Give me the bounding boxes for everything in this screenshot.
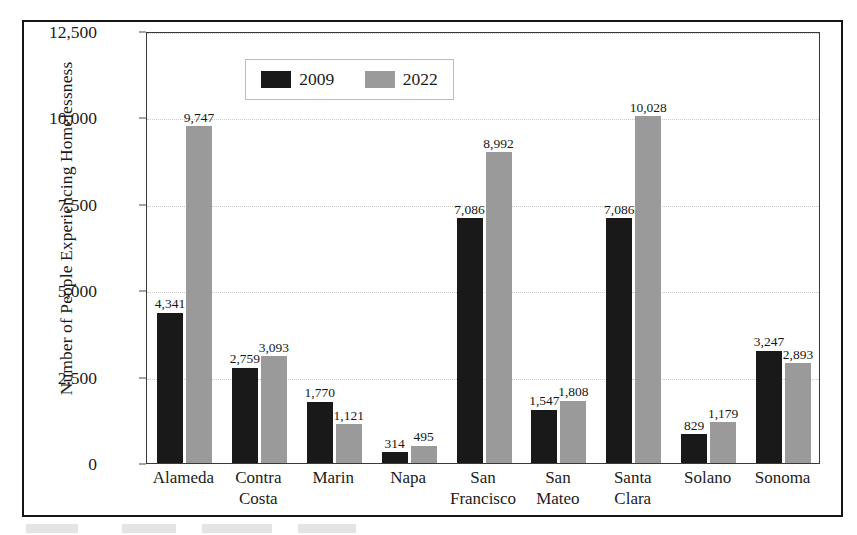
y-axis-tick-mark bbox=[139, 204, 146, 205]
bar-value-label: 2,893 bbox=[783, 348, 813, 362]
y-axis-tick-label: 0 bbox=[0, 454, 97, 475]
y-axis-tick-mark bbox=[139, 118, 146, 119]
legend-label-2022: 2022 bbox=[403, 69, 438, 90]
y-axis-tick-label: 7,500 bbox=[0, 194, 97, 215]
bar-2022[interactable]: 10,028 bbox=[635, 116, 661, 463]
x-axis-label: Santa Clara bbox=[595, 468, 670, 509]
y-axis-tick-label: 10,000 bbox=[0, 108, 97, 129]
bar-2022[interactable]: 1,121 bbox=[336, 424, 362, 463]
x-axis-label: San Mateo bbox=[520, 468, 595, 509]
bar-group: 3,2472,893 bbox=[756, 33, 811, 463]
x-axis-label: Marin bbox=[296, 468, 371, 489]
bar-group: 7,08610,028 bbox=[606, 33, 661, 463]
bar-2022[interactable]: 3,093 bbox=[261, 356, 287, 463]
bar-value-label: 7,086 bbox=[454, 203, 484, 217]
bar-2022[interactable]: 495 bbox=[411, 446, 437, 463]
bar-group: 4,3419,747 bbox=[157, 33, 212, 463]
y-axis-tick-mark bbox=[139, 464, 146, 465]
y-axis-tick-mark bbox=[139, 291, 146, 292]
bar-value-label: 3,093 bbox=[259, 341, 289, 355]
chart-legend: 2009 2022 bbox=[245, 59, 454, 100]
clipped-caption-remnant bbox=[26, 524, 446, 533]
bar-chart: Number of People Experiencing Homelessne… bbox=[24, 22, 841, 515]
bar-group: 1,5471,808 bbox=[531, 33, 586, 463]
x-axis-label: Napa bbox=[371, 468, 446, 489]
y-axis-tick-mark bbox=[139, 32, 146, 33]
bar-2009[interactable]: 4,341 bbox=[157, 313, 183, 463]
bar-value-label: 8,992 bbox=[483, 137, 513, 151]
bar-2009[interactable]: 7,086 bbox=[606, 218, 632, 463]
y-axis-tick-mark bbox=[139, 377, 146, 378]
bar-2009[interactable]: 1,770 bbox=[307, 402, 333, 463]
bar-value-label: 1,179 bbox=[708, 407, 738, 421]
bar-2022[interactable]: 2,893 bbox=[785, 363, 811, 463]
bar-2022[interactable]: 1,179 bbox=[710, 422, 736, 463]
x-axis-label: San Francisco bbox=[446, 468, 521, 509]
bar-value-label: 1,121 bbox=[334, 409, 364, 423]
bar-value-label: 1,808 bbox=[558, 385, 588, 399]
legend-item-2009: 2009 bbox=[261, 69, 334, 90]
bar-group: 7,0868,992 bbox=[457, 33, 512, 463]
bar-value-label: 1,547 bbox=[529, 394, 559, 408]
x-axis-label: Solano bbox=[670, 468, 745, 489]
bar-2022[interactable]: 8,992 bbox=[486, 152, 512, 463]
figure-frame: Number of People Experiencing Homelessne… bbox=[22, 20, 843, 517]
legend-swatch-2022-icon bbox=[365, 71, 395, 88]
bar-2009[interactable]: 314 bbox=[382, 452, 408, 463]
bar-2022[interactable]: 9,747 bbox=[186, 126, 212, 463]
x-axis-label: Contra Costa bbox=[221, 468, 296, 509]
bar-value-label: 4,341 bbox=[155, 297, 185, 311]
bar-value-label: 314 bbox=[384, 437, 404, 451]
bar-value-label: 1,770 bbox=[305, 386, 335, 400]
bar-value-label: 3,247 bbox=[754, 335, 784, 349]
bar-value-label: 9,747 bbox=[184, 111, 214, 125]
bar-value-label: 829 bbox=[684, 419, 704, 433]
bar-2022[interactable]: 1,808 bbox=[560, 401, 586, 463]
bar-value-label: 495 bbox=[413, 430, 433, 444]
y-axis-tick-label: 12,500 bbox=[0, 22, 97, 43]
bar-value-label: 2,759 bbox=[230, 352, 260, 366]
bar-2009[interactable]: 829 bbox=[681, 434, 707, 463]
bar-2009[interactable]: 7,086 bbox=[457, 218, 483, 463]
x-axis-label: Sonoma bbox=[745, 468, 820, 489]
x-axis-label: Alameda bbox=[146, 468, 221, 489]
bar-value-label: 7,086 bbox=[604, 203, 634, 217]
bar-group: 8291,179 bbox=[681, 33, 736, 463]
bar-2009[interactable]: 1,547 bbox=[531, 410, 557, 463]
bar-2009[interactable]: 2,759 bbox=[232, 368, 258, 463]
bar-value-label: 10,028 bbox=[630, 101, 667, 115]
legend-item-2022: 2022 bbox=[365, 69, 438, 90]
y-axis-tick-label: 2,500 bbox=[0, 367, 97, 388]
y-axis-tick-label: 5,000 bbox=[0, 281, 97, 302]
legend-label-2009: 2009 bbox=[299, 69, 334, 90]
bar-2009[interactable]: 3,247 bbox=[756, 351, 782, 463]
legend-swatch-2009-icon bbox=[261, 71, 291, 88]
